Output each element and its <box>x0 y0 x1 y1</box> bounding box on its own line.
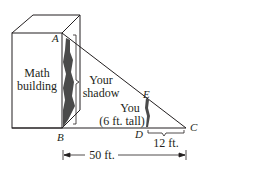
shadow-label-line1: Your <box>89 73 112 87</box>
bc-dimension <box>63 150 186 160</box>
similar-triangles-diagram: A B C D E Math building Your shadow You … <box>0 0 258 170</box>
building-label-line2: building <box>17 79 57 93</box>
point-c-label: C <box>190 121 198 133</box>
shadow-label-line2: shadow <box>83 86 120 100</box>
you-label-line1: You <box>120 101 139 115</box>
building-label-line1: Math <box>24 66 49 80</box>
shadow-brace <box>73 35 79 124</box>
person-figure <box>145 98 150 127</box>
you-label-line2: (6 ft. tall) <box>99 114 145 128</box>
dc-length-label: 12 ft. <box>153 136 178 150</box>
bc-length-label: 50 ft. <box>89 148 114 162</box>
point-b-label: B <box>57 131 64 143</box>
point-e-label: E <box>142 88 150 100</box>
point-d-label: D <box>134 128 143 140</box>
person-shadow <box>63 38 75 127</box>
point-a-label: A <box>51 32 59 44</box>
